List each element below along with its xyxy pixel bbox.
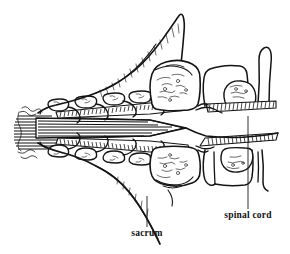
label-spinal-cord: spinal cord xyxy=(224,210,272,220)
anatomy-illustration-canvas: sacrum spinal cord xyxy=(0,0,290,254)
anatomical-figure: sacrum spinal cord xyxy=(0,0,290,254)
label-sacrum: sacrum xyxy=(131,228,162,238)
upper-sacral-body xyxy=(150,60,200,110)
